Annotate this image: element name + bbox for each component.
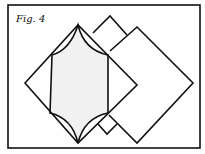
right-diamond	[109, 27, 193, 143]
figure-caption: Fig. 4	[15, 13, 45, 24]
back-square-bottom	[98, 124, 117, 134]
figure-diagram: Fig. 4	[0, 0, 205, 154]
back-square-top	[93, 16, 127, 35]
